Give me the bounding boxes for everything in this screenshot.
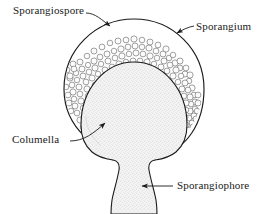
leader-sporangium (177, 26, 194, 33)
label-sporangiophore: Sporangiophore (177, 180, 249, 191)
label-sporangium: Sporangium (196, 21, 251, 32)
label-sporangiospore: Sporangiospore (13, 5, 84, 16)
sporangium-diagram: Sporangiospore Sporangium Columella Spor… (0, 0, 269, 214)
label-columella: Columella (12, 134, 59, 145)
columella-and-stalk (81, 62, 187, 214)
